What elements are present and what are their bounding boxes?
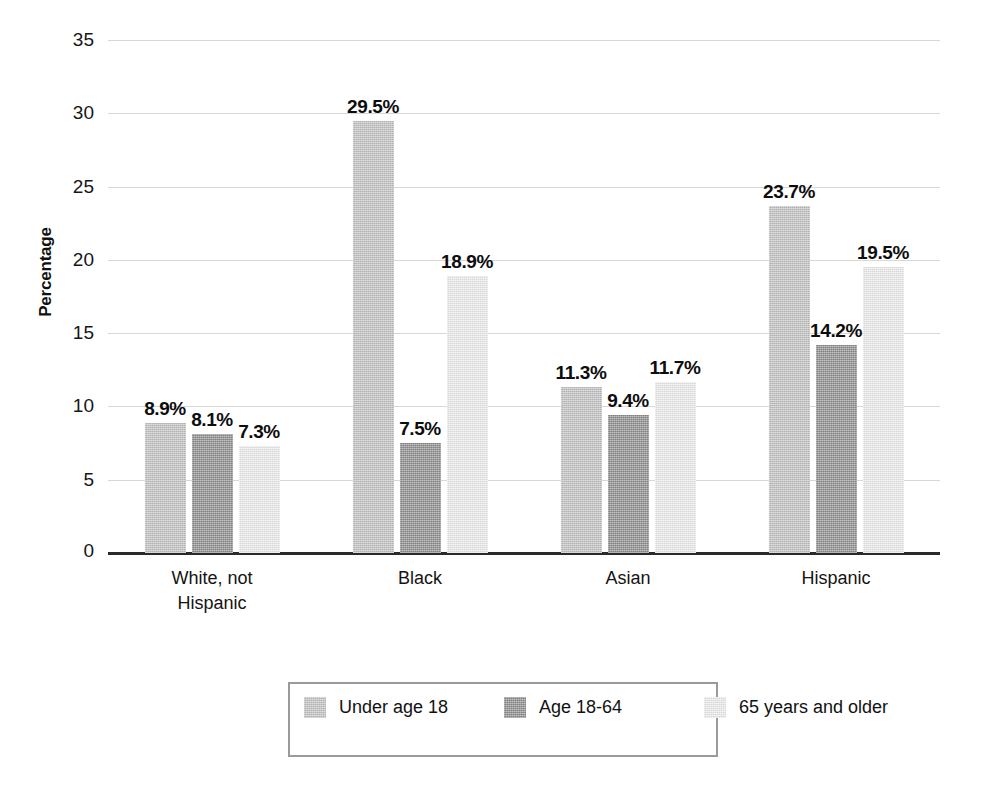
bar-value: 7.3% [238, 421, 280, 443]
bar-wrap: 7.3% [239, 40, 280, 553]
category-label-asian: Asian [605, 566, 650, 591]
legend-label: 65 years and older [739, 697, 888, 718]
bar-wrap: 8.1% [192, 40, 233, 553]
bar-wrap: 7.5% [400, 40, 441, 553]
category-label-line: Black [398, 566, 442, 591]
bar-chart: Percentage 35 30 25 20 15 10 5 0 [0, 0, 982, 794]
bar-white-65-plus[interactable]: 7.3% [239, 446, 280, 553]
bar-value: 18.9% [441, 251, 493, 273]
category-label-black: Black [398, 566, 442, 591]
y-tick-25: 25 [73, 176, 94, 198]
bar-value: 7.5% [399, 418, 441, 440]
bar-asian-under-18[interactable]: 11.3% [561, 387, 602, 553]
category-label-white-not-hispanic: White, not Hispanic [171, 566, 252, 616]
legend-label: Under age 18 [339, 697, 448, 718]
bar-wrap: 19.5% [863, 40, 904, 553]
bar-value: 19.5% [857, 242, 909, 264]
bar-group-bars: 29.5% 7.5% 18.9% [316, 40, 524, 553]
category-label-line: Asian [605, 566, 650, 591]
y-axis-title: Percentage [36, 212, 56, 332]
y-tick-10: 10 [73, 395, 94, 417]
bar-group-bars: 8.9% 8.1% 7.3% [108, 40, 316, 553]
bar-wrap: 11.7% [655, 40, 696, 553]
bar-hispanic-18-64[interactable]: 14.2% [816, 345, 857, 553]
bar-wrap: 11.3% [561, 40, 602, 553]
legend-label: Age 18-64 [539, 697, 622, 718]
bar-wrap: 14.2% [816, 40, 857, 553]
legend-swatch-icon [704, 697, 726, 718]
bar-value: 9.4% [607, 390, 649, 412]
legend-item-65-years-and-older[interactable]: 65 years and older [704, 693, 888, 722]
bar-white-18-64[interactable]: 8.1% [192, 434, 233, 553]
bar-hispanic-under-18[interactable]: 23.7% [769, 206, 810, 553]
bar-wrap: 23.7% [769, 40, 810, 553]
bar-value: 29.5% [347, 96, 399, 118]
bar-group-hispanic: 23.7% 14.2% 19.5% Hispanic [732, 40, 940, 553]
bar-wrap: 18.9% [447, 40, 488, 553]
bar-asian-18-64[interactable]: 9.4% [608, 415, 649, 553]
y-tick-35: 35 [73, 29, 94, 51]
y-tick-5: 5 [83, 469, 94, 491]
bar-wrap: 29.5% [353, 40, 394, 553]
category-label-line: White, not [171, 566, 252, 591]
bar-value: 23.7% [763, 181, 815, 203]
bar-value: 8.9% [144, 398, 186, 420]
bar-value: 11.7% [650, 357, 701, 379]
bar-value: 14.2% [810, 320, 862, 342]
bar-black-under-18[interactable]: 29.5% [353, 121, 394, 553]
bar-hispanic-65-plus[interactable]: 19.5% [863, 267, 904, 553]
bar-group-asian: 11.3% 9.4% 11.7% Asian [524, 40, 732, 553]
chart-legend: Under age 18 Age 18-64 65 years and olde… [288, 682, 718, 757]
category-label-hispanic: Hispanic [801, 566, 870, 591]
legend-item-under-age-18[interactable]: Under age 18 [304, 693, 504, 722]
bar-white-under-18[interactable]: 8.9% [145, 423, 186, 553]
bar-wrap: 8.9% [145, 40, 186, 553]
y-tick-20: 20 [73, 249, 94, 271]
bar-wrap: 9.4% [608, 40, 649, 553]
bar-value: 11.3% [556, 362, 607, 384]
category-label-line: Hispanic [171, 591, 252, 616]
bar-group-black: 29.5% 7.5% 18.9% Black [316, 40, 524, 553]
legend-grid: Under age 18 Age 18-64 65 years and olde… [304, 693, 888, 722]
legend-swatch-icon [504, 697, 526, 718]
bar-group-bars: 11.3% 9.4% 11.7% [524, 40, 732, 553]
y-tick-30: 30 [73, 102, 94, 124]
legend-item-age-18-64[interactable]: Age 18-64 [504, 693, 704, 722]
bar-value: 8.1% [191, 409, 233, 431]
bar-group-bars: 23.7% 14.2% 19.5% [732, 40, 940, 553]
y-tick-15: 15 [73, 322, 94, 344]
bar-black-65-plus[interactable]: 18.9% [447, 276, 488, 553]
legend-swatch-icon [304, 697, 326, 718]
bar-black-18-64[interactable]: 7.5% [400, 443, 441, 553]
y-tick-0: 0 [83, 540, 94, 562]
bar-asian-65-plus[interactable]: 11.7% [655, 382, 696, 553]
category-label-line: Hispanic [801, 566, 870, 591]
bar-group-white-not-hispanic: 8.9% 8.1% 7.3% White, not Hispanic [108, 40, 316, 553]
plot-area: 35 30 25 20 15 10 5 0 8.9% [108, 40, 940, 553]
